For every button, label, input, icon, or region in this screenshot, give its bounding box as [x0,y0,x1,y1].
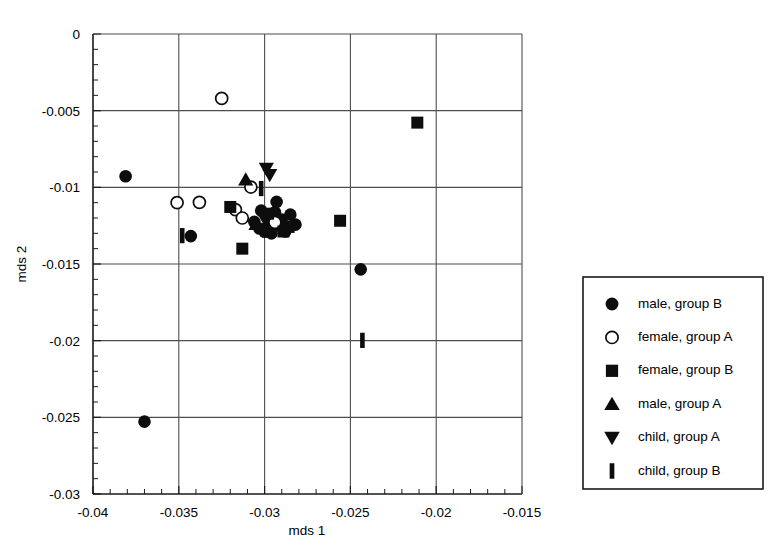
x-tick-label: -0.015 [503,505,541,520]
legend-marker-bar-vertical [610,463,615,479]
data-point [360,333,365,348]
x-axis-title: mds 1 [289,523,326,538]
legend: male, group Bfemale, group Afemale, grou… [583,277,763,489]
data-point [171,197,183,209]
y-tick-label: 0 [72,27,80,42]
x-tick-label: -0.035 [160,505,198,520]
y-tick-label: -0.02 [49,334,80,349]
legend-marker-circle-filled [606,298,619,311]
data-point [270,196,283,209]
data-point [180,228,185,243]
data-point [185,230,198,243]
data-point [277,225,289,237]
data-point [334,215,346,227]
data-point [354,263,367,276]
data-point [193,196,205,208]
data-markers [119,92,423,428]
data-point [411,117,423,129]
tick-labels: 0-0.005-0.01-0.015-0.02-0.025-0.03-0.04-… [42,27,541,520]
legend-label: child, group B [638,463,721,478]
y-tick-label: -0.025 [42,410,80,425]
data-point [236,243,248,255]
y-tick-label: -0.015 [42,257,80,272]
x-tick-label: -0.04 [78,505,109,520]
data-point [259,181,264,196]
legend-label: child, group A [638,429,720,444]
legend-label: female, group B [638,362,733,377]
legend-marker-circle-open [606,331,618,343]
y-axis-title: mds 2 [14,246,29,283]
legend-label: male, group B [638,296,722,311]
scatter-plot-figure: 0-0.005-0.01-0.015-0.02-0.025-0.03-0.04-… [0,0,777,560]
y-tick-label: -0.005 [42,104,80,119]
data-point [224,201,236,213]
legend-label: male, group A [638,396,721,411]
legend-marker-square-filled [606,365,618,377]
legend-label: female, group A [638,329,733,344]
x-tick-label: -0.025 [331,505,369,520]
grid-lines [93,34,522,494]
y-tick-label: -0.03 [49,487,80,502]
data-point [238,172,253,185]
x-tick-label: -0.03 [249,505,280,520]
y-tick-label: -0.01 [49,180,80,195]
plot-canvas: 0-0.005-0.01-0.015-0.02-0.025-0.03-0.04-… [0,0,777,560]
series-circle-filled [119,170,367,428]
data-point [119,170,132,183]
data-point [216,92,228,104]
x-tick-label: -0.02 [421,505,452,520]
data-point [236,212,248,224]
data-point [138,415,151,428]
